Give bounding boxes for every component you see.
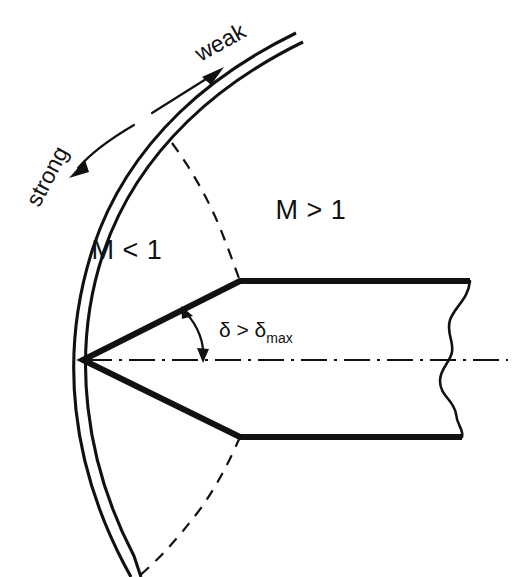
strong-branch-arrowhead <box>69 160 89 178</box>
subsonic-region-label: M < 1 <box>92 235 163 265</box>
bow-shock-figure: weak strong M < 1 M > 1 δ > δmax <box>0 0 516 577</box>
weak-branch-label: weak <box>189 17 250 66</box>
diagram-canvas: weak strong M < 1 M > 1 δ > δmax <box>0 0 516 577</box>
strong-branch-label: strong <box>20 142 73 211</box>
supersonic-region-label: M > 1 <box>276 195 347 225</box>
sonic-line-lower <box>139 437 240 576</box>
sonic-line-upper <box>172 143 240 281</box>
wedge-angle-label-main: δ > δ <box>219 318 266 341</box>
wedge-angle-label-subscript: max <box>266 330 292 346</box>
strong-branch-arrow-shaft <box>78 125 134 168</box>
